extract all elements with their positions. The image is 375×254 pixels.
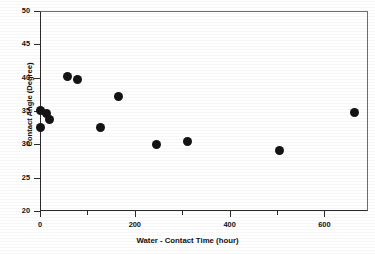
x-tick-mark — [40, 211, 41, 217]
scatter-point — [114, 92, 123, 101]
scatter-point — [275, 146, 284, 155]
scatter-point — [96, 123, 105, 132]
x-tick-minor — [87, 211, 88, 215]
x-tick-mark — [230, 211, 231, 217]
scatter-point — [73, 75, 82, 84]
x-tick-mark — [324, 211, 325, 217]
x-tick-label: 0 — [20, 221, 60, 228]
chart-title — [0, 0, 375, 1]
y-tick-label: 30 — [4, 140, 30, 147]
x-tick-mark — [135, 211, 136, 217]
y-tick-label: 40 — [4, 74, 30, 81]
scatter-point — [350, 108, 359, 117]
y-tick-label: 20 — [4, 207, 30, 214]
y-tick-mark — [34, 178, 40, 179]
y-tick-mark — [34, 44, 40, 45]
y-tick-mark — [34, 11, 40, 12]
scatter-point — [152, 140, 161, 149]
y-tick-mark — [34, 144, 40, 145]
scatter-point — [63, 72, 72, 81]
scatter-point — [36, 123, 45, 132]
scatter-point — [183, 137, 192, 146]
plot-area — [40, 11, 368, 211]
x-tick-label: 200 — [115, 221, 155, 228]
y-tick-label: 50 — [4, 7, 30, 14]
y-tick-mark — [34, 78, 40, 79]
y-tick-label: 45 — [4, 40, 30, 47]
x-tick-label: 600 — [304, 221, 344, 228]
y-tick-label: 35 — [4, 107, 30, 114]
y-axis-label: Contact Angle (Degree) — [25, 30, 34, 180]
x-axis-label: Water - Contact Time (hour) — [0, 236, 375, 245]
y-tick-label: 25 — [4, 174, 30, 181]
chart-figure: Contact Angle (Degree) Water - Contact T… — [0, 0, 375, 254]
x-tick-minor — [182, 211, 183, 215]
scatter-point — [45, 115, 54, 124]
x-tick-label: 400 — [210, 221, 250, 228]
x-tick-minor — [277, 211, 278, 215]
